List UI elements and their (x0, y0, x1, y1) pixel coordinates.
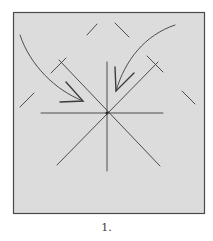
figure-caption: 1. (0, 221, 213, 234)
center-point (106, 112, 109, 115)
origami-step-diagram (0, 0, 213, 241)
